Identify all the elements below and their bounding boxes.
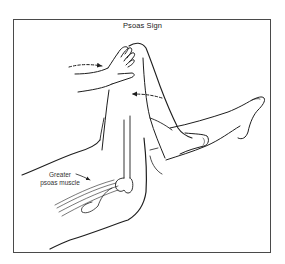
muscle-label: Greater psoas muscle: [30, 171, 90, 186]
femur-bone: [81, 116, 132, 213]
push-arrow: [69, 65, 102, 67]
patient-raised-leg: [102, 43, 265, 160]
psoas-sign-illustration: [0, 0, 285, 264]
examiner-hand: [75, 47, 135, 92]
muscle-label-line1: Greater: [30, 171, 90, 179]
muscle-label-line2: psoas muscle: [30, 179, 90, 187]
resist-arrow: [132, 94, 162, 98]
